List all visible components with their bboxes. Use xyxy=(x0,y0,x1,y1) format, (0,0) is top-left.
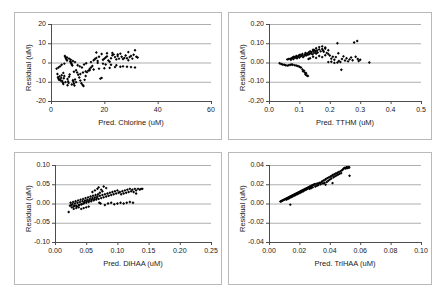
data-point xyxy=(100,53,103,56)
x-tick-label: 0.02 xyxy=(284,247,314,254)
data-point xyxy=(112,193,115,196)
x-tick-label: 0.08 xyxy=(376,247,406,254)
data-point xyxy=(119,65,122,68)
data-point xyxy=(116,53,119,56)
y-tick-label: 0.04 xyxy=(229,161,264,168)
x-tick-label: 0.2 xyxy=(315,106,345,113)
data-point xyxy=(134,66,137,69)
chart-panel-dihaa: -0.10-0.050.000.050.100.000.050.100.150.… xyxy=(14,152,222,285)
data-point xyxy=(63,75,66,78)
x-tick-label: 40 xyxy=(143,106,173,113)
data-point xyxy=(327,49,330,52)
data-point xyxy=(102,185,105,188)
data-point xyxy=(87,205,90,208)
data-point xyxy=(318,55,321,58)
data-point xyxy=(340,68,343,71)
data-point xyxy=(93,189,96,192)
data-point xyxy=(333,58,336,61)
data-point xyxy=(368,61,371,64)
data-point xyxy=(107,194,110,197)
x-tick-label: 0.3 xyxy=(345,106,375,113)
x-tick-label: 0.05 xyxy=(71,247,101,254)
data-point xyxy=(337,52,340,55)
data-point xyxy=(125,191,128,194)
data-point xyxy=(105,195,108,198)
data-point xyxy=(120,55,123,58)
data-point xyxy=(345,57,348,60)
data-point xyxy=(121,190,124,193)
data-point xyxy=(98,67,101,70)
data-point xyxy=(134,49,137,52)
data-point xyxy=(106,192,109,195)
data-point xyxy=(96,61,99,64)
residual-plots-figure: -20-10010200204060Pred. Chlorine (uM)Res… xyxy=(0,0,442,297)
data-point xyxy=(106,52,109,55)
data-point xyxy=(72,70,75,73)
y-axis-title: Residual (uM) xyxy=(24,185,33,232)
x-tick-label: 0.25 xyxy=(196,247,226,254)
y-axis-title: Residual (uM) xyxy=(24,44,33,91)
data-point xyxy=(119,52,122,55)
x-axis-title: Pred. Chlorine (uM) xyxy=(51,118,211,127)
data-point xyxy=(334,56,337,59)
data-point xyxy=(101,194,104,197)
data-point xyxy=(132,191,135,194)
data-point xyxy=(103,67,106,70)
x-tick-label: 0.10 xyxy=(102,247,132,254)
data-point xyxy=(110,194,113,197)
data-point xyxy=(312,55,315,58)
data-point xyxy=(124,54,127,57)
chart-panel-chlorine: -20-10010200204060Pred. Chlorine (uM)Res… xyxy=(14,12,222,140)
data-point xyxy=(113,190,116,193)
data-point xyxy=(104,63,107,66)
data-point xyxy=(82,71,85,74)
data-point xyxy=(102,196,105,199)
data-point xyxy=(67,211,70,214)
scatter-series-chlorine xyxy=(55,49,139,88)
plot-canvas-dihaa: -0.10-0.050.000.050.100.000.050.100.150.… xyxy=(15,153,221,284)
data-point xyxy=(84,75,87,78)
x-tick-label: 0.10 xyxy=(406,247,436,254)
data-point xyxy=(113,203,116,206)
data-point xyxy=(110,57,113,60)
data-point xyxy=(107,202,110,205)
x-axis-title: Pred. DiHAA (uM) xyxy=(55,259,211,268)
data-point xyxy=(111,191,114,194)
x-tick-label: 0.20 xyxy=(165,247,195,254)
data-point xyxy=(348,174,351,177)
data-point xyxy=(333,61,336,64)
data-point xyxy=(82,207,85,210)
data-point xyxy=(122,202,125,205)
chart-panel-tthm: -0.20-0.100.000.100.200.00.10.20.30.40.5… xyxy=(228,12,432,140)
data-point xyxy=(62,71,65,74)
y-tick-label: -0.20 xyxy=(229,97,264,104)
x-axis-title: Pred. TriHAA (uM) xyxy=(269,259,421,268)
data-point xyxy=(78,76,81,79)
x-tick-label: 60 xyxy=(196,106,226,113)
data-point xyxy=(91,191,94,194)
data-point xyxy=(131,57,134,60)
data-point xyxy=(68,75,71,78)
data-point xyxy=(100,197,103,200)
scatter-series-tthm xyxy=(278,39,371,77)
x-tick-label: 0.1 xyxy=(284,106,314,113)
y-axis-title: Residual (uM) xyxy=(238,185,247,232)
data-point xyxy=(130,66,133,69)
data-point xyxy=(62,77,65,80)
data-point xyxy=(108,191,111,194)
y-tick-label: 20 xyxy=(15,20,46,27)
x-tick-label: 0 xyxy=(36,106,66,113)
x-tick-label: 0.5 xyxy=(406,106,436,113)
data-point xyxy=(321,56,324,59)
data-point xyxy=(321,45,324,48)
data-point xyxy=(122,192,125,195)
y-tick-label: -0.04 xyxy=(229,238,264,245)
x-tick-label: 0.06 xyxy=(345,247,375,254)
plot-canvas-tthm: -0.20-0.100.000.100.200.00.10.20.30.40.5… xyxy=(229,13,431,139)
data-point xyxy=(122,65,125,68)
data-point xyxy=(354,55,357,58)
y-tick-label: -20 xyxy=(15,97,46,104)
x-axis-title: Pred. TTHM (uM) xyxy=(269,118,421,127)
data-point xyxy=(66,78,69,81)
data-point xyxy=(83,78,86,81)
